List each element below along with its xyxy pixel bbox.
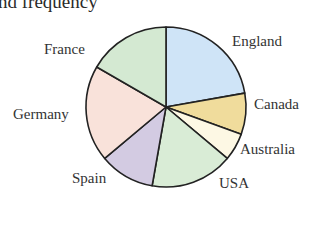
label-france: France [44,41,85,58]
label-spain: Spain [72,170,106,187]
label-germany: Germany [13,106,69,123]
label-australia: Australia [240,141,295,158]
label-england: England [232,33,282,50]
label-usa: USA [219,175,249,192]
label-canada: Canada [254,96,299,113]
